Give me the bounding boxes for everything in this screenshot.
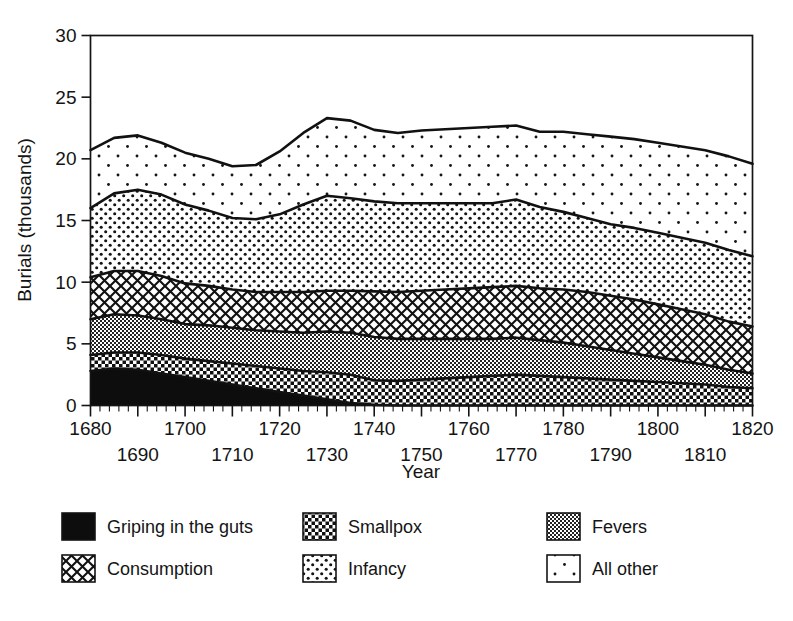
x-tick-label-1730: 1730 xyxy=(306,444,348,465)
x-tick-label-1810: 1810 xyxy=(684,444,726,465)
legend-item-all-other: All other xyxy=(547,555,658,582)
legend-label-text: Fevers xyxy=(592,517,647,537)
x-tick-label-1720: 1720 xyxy=(259,418,301,439)
stacked-area-bands xyxy=(91,118,753,405)
legend-swatch-checkerboard xyxy=(303,513,336,540)
x-tick-label-1700: 1700 xyxy=(164,418,206,439)
legend-label-text: Smallpox xyxy=(348,517,422,537)
x-tick-label-1770: 1770 xyxy=(495,444,537,465)
y-axis-title: Burials (thousands) xyxy=(14,138,35,302)
y-tick-label-30: 30 xyxy=(55,25,76,46)
legend-swatch-diamond-hatch xyxy=(62,555,95,582)
y-tick-label-25: 25 xyxy=(55,87,76,108)
x-tick-label-1690: 1690 xyxy=(117,444,159,465)
legend-label-text: Infancy xyxy=(348,559,406,579)
y-tick-label-20: 20 xyxy=(55,148,76,169)
y-tick-label-10: 10 xyxy=(55,272,76,293)
legend-swatch-solid-black xyxy=(62,513,95,540)
x-axis-title: Year xyxy=(402,461,441,482)
x-tick-label-1780: 1780 xyxy=(542,418,584,439)
legend-item-griping-in-the-guts: Griping in the guts xyxy=(62,513,253,540)
x-tick-label-1680: 1680 xyxy=(69,418,111,439)
y-tick-label-0: 0 xyxy=(66,395,77,416)
x-tick-label-1820: 1820 xyxy=(731,418,773,439)
chart-canvas: 051015202530 168017001720174017601780180… xyxy=(0,0,793,621)
legend-item-fevers: Fevers xyxy=(547,513,647,540)
x-tick-label-1790: 1790 xyxy=(590,444,632,465)
y-tick-label-5: 5 xyxy=(66,333,77,354)
legend-label-text: Consumption xyxy=(107,559,213,579)
y-tick-label-15: 15 xyxy=(55,210,76,231)
legend-label-text: All other xyxy=(592,559,658,579)
legend-item-smallpox: Smallpox xyxy=(303,513,422,540)
x-tick-label-1710: 1710 xyxy=(211,444,253,465)
legend-item-consumption: Consumption xyxy=(62,555,213,582)
legend-swatch-dense-dots xyxy=(303,555,336,582)
x-tick-label-1740: 1740 xyxy=(353,418,395,439)
legend-label-text: Griping in the guts xyxy=(107,517,253,537)
legend-item-infancy: Infancy xyxy=(303,555,406,582)
burials-stacked-area-figure: 051015202530 168017001720174017601780180… xyxy=(0,0,793,621)
legend-swatch-gray-stipple xyxy=(547,513,580,540)
x-tick-label-1760: 1760 xyxy=(448,418,490,439)
x-tick-label-1800: 1800 xyxy=(637,418,679,439)
legend-swatch-sparse-dots xyxy=(547,555,580,582)
